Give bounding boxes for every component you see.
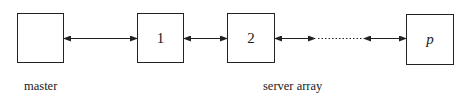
server-array-caption: server array [263, 79, 322, 94]
master-caption: master [24, 79, 57, 94]
connection-arrows [0, 0, 468, 100]
